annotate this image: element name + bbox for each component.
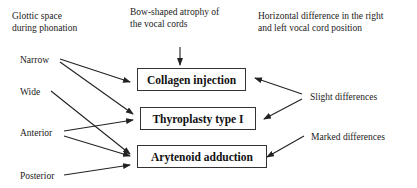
- box-arytenoid-adduction: Arytenoid adduction: [137, 145, 267, 168]
- box-thyroplasty-type-1: Thyroplasty type I: [140, 107, 256, 130]
- header-glottic-line2: during phonation: [12, 22, 77, 34]
- header-bow-line2: the vocal cords: [130, 18, 219, 30]
- label-marked-differences: Marked differences: [311, 131, 385, 143]
- label-posterior: Posterior: [20, 170, 54, 182]
- label-slight-differences: Slight differences: [310, 91, 377, 103]
- header-glottic-line1: Glottic space: [12, 10, 77, 22]
- label-anterior: Anterior: [20, 127, 52, 139]
- header-horizontal-line2: and left vocal cord position: [258, 22, 383, 34]
- header-horizontal-line1: Horizontal difference in the right: [258, 10, 383, 22]
- label-narrow: Narrow: [20, 54, 49, 66]
- label-wide: Wide: [20, 86, 40, 98]
- box-collagen-injection: Collagen injection: [137, 68, 246, 91]
- header-horizontal-difference: Horizontal difference in the right and l…: [258, 10, 383, 34]
- header-glottic-space: Glottic space during phonation: [12, 10, 77, 34]
- header-bow-line1: Bow-shaped atrophy of: [130, 6, 219, 18]
- header-bow-shaped: Bow-shaped atrophy of the vocal cords: [130, 6, 219, 30]
